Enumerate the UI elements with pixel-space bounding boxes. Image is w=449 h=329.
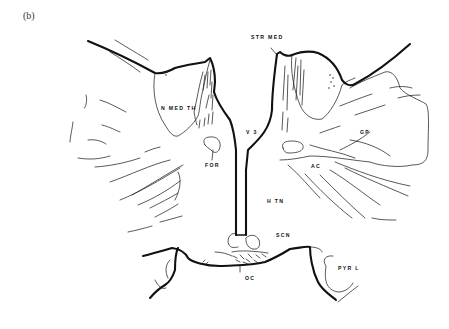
label-ac: AC bbox=[311, 164, 321, 169]
label-for: FOR bbox=[205, 163, 220, 168]
label-htn: H TN bbox=[267, 199, 284, 204]
right-outer-contour bbox=[280, 72, 429, 167]
label-str-med: STR MED bbox=[251, 35, 283, 40]
right-fibers bbox=[288, 87, 420, 221]
label-v3: V 3 bbox=[246, 130, 258, 135]
right-medial-wall bbox=[246, 54, 277, 235]
label-pyr-l: PYR L bbox=[338, 266, 360, 271]
left-fibers bbox=[70, 40, 183, 232]
label-oc: OC bbox=[245, 276, 255, 281]
left-wedge-outline bbox=[194, 72, 203, 125]
right-oval bbox=[282, 141, 303, 153]
bottom-boundary bbox=[143, 247, 336, 300]
label-n-med-th: N MED TH bbox=[161, 106, 196, 111]
scn-right bbox=[246, 235, 260, 249]
label-scn: SCN bbox=[276, 233, 291, 238]
for-outline bbox=[204, 137, 220, 153]
brain-section-diagram bbox=[0, 0, 449, 329]
left-lower-boundary bbox=[150, 248, 178, 298]
n-med-th-outline bbox=[154, 60, 210, 136]
left-outer-boundary bbox=[88, 41, 215, 92]
label-gp: GP bbox=[360, 130, 370, 135]
